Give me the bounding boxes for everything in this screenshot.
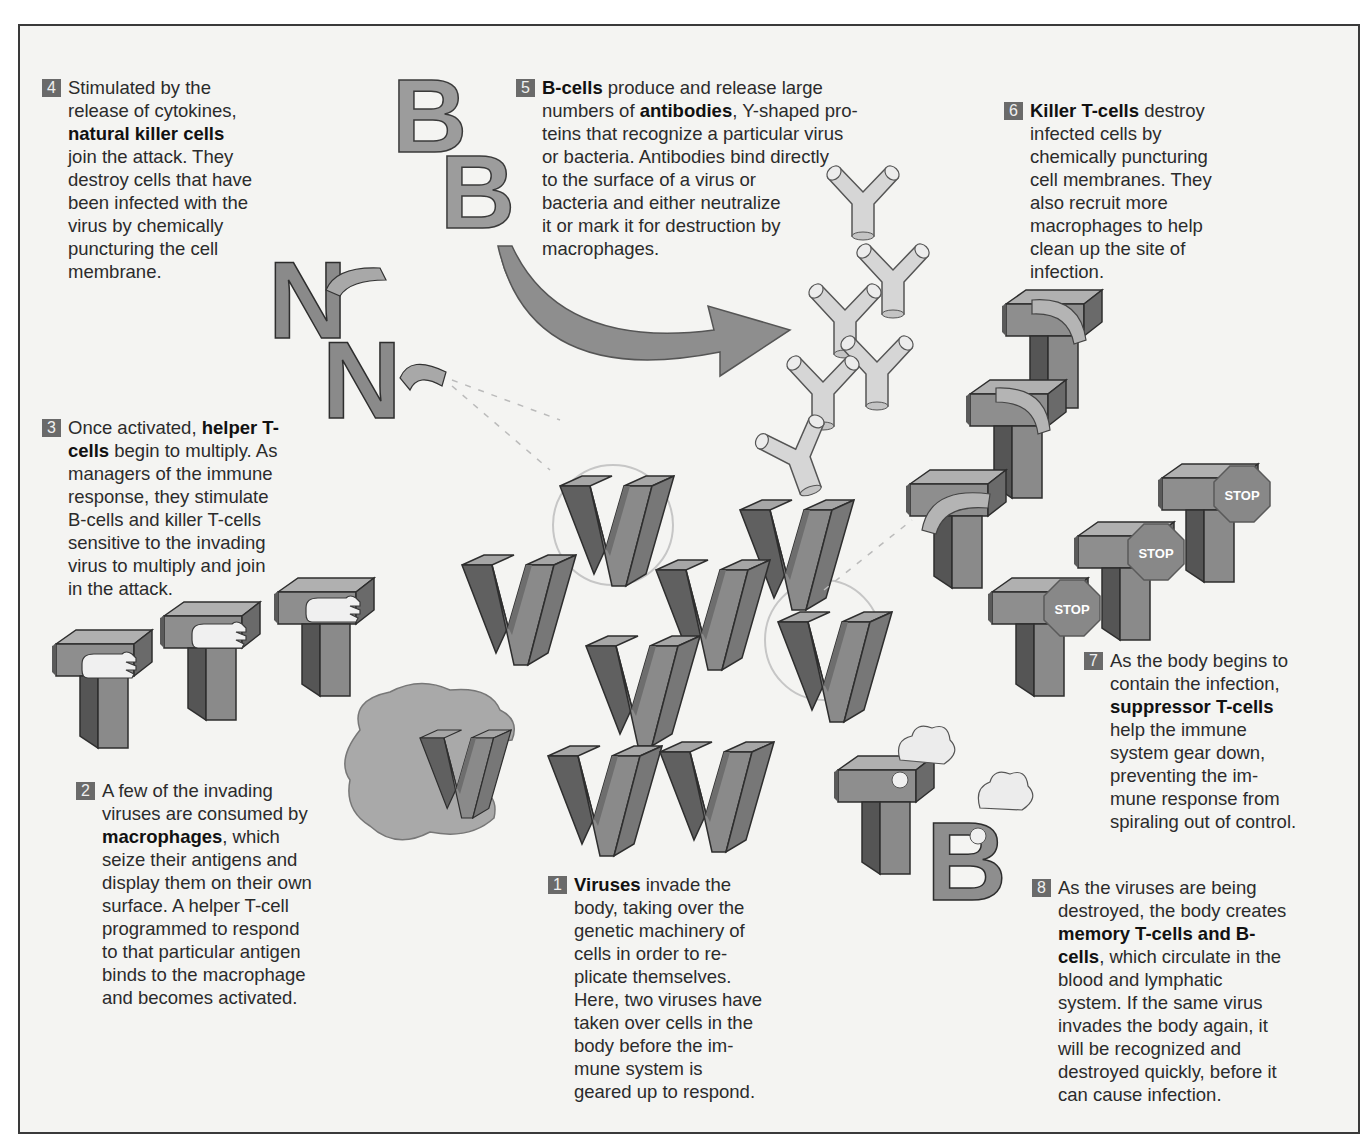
helper-t-cells — [52, 578, 374, 748]
step-6-caption: 6 Killer T-cells destroy infected cells … — [1004, 99, 1264, 283]
step-number-badge: 8 — [1032, 879, 1051, 897]
step-8-caption: 8 As the viruses are being destroyed, th… — [1032, 876, 1342, 1106]
svg-text:B: B — [440, 134, 515, 250]
step-number-badge: 6 — [1004, 102, 1023, 120]
killer-t-cells — [906, 290, 1102, 588]
step-3-caption: 3 Once activated, helper T- cells begin … — [42, 416, 332, 600]
memory-cells: B — [834, 726, 1033, 924]
step-number-badge: 2 — [76, 782, 95, 800]
step-4-caption: 4 Stimulated by the release of cytokines… — [42, 76, 312, 283]
step-2-caption: 2 A few of the invading viruses are cons… — [76, 779, 366, 1009]
step-1-caption: 1 Viruses invade the body, taking over t… — [548, 873, 818, 1103]
step-7-caption: 7 As the body begins to contain the infe… — [1084, 649, 1344, 833]
step-number-badge: 5 — [516, 79, 535, 97]
stop-sign-icon: STOP — [1138, 546, 1173, 561]
svg-text:N: N — [322, 318, 401, 441]
step-number-badge: 4 — [42, 79, 61, 97]
stop-sign-icon: STOP — [1224, 488, 1259, 503]
step-number-badge: 7 — [1084, 652, 1103, 670]
stop-sign-icon: STOP — [1054, 602, 1089, 617]
b-cell-letters: B B — [392, 58, 515, 250]
svg-text:B: B — [926, 799, 1007, 924]
step-number-badge: 3 — [42, 419, 61, 437]
step-5-caption: 5 B-cells produce and release large numb… — [516, 76, 916, 260]
step-number-badge: 1 — [548, 876, 567, 894]
curved-arrow-icon — [498, 246, 790, 376]
macrophage — [345, 683, 514, 839]
